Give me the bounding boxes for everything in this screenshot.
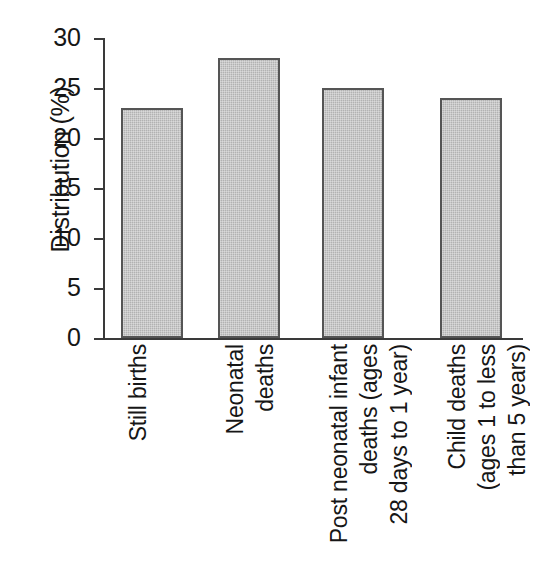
y-tick-label-30: 30: [53, 23, 81, 51]
bar: [322, 88, 384, 338]
y-tick-label-10: 10: [53, 223, 81, 251]
y-tick-label-5: 5: [67, 273, 81, 301]
bar: [121, 108, 183, 338]
x-axis-label-line: deaths (ages: [354, 344, 384, 475]
y-tick-30: 30: [94, 38, 103, 40]
x-axis-line: [103, 338, 523, 340]
x-axis-label-line: deaths: [250, 344, 280, 412]
bar-chart: Distribution (%) 051015202530 Still birt…: [0, 0, 540, 587]
y-tick-label-15: 15: [53, 173, 81, 201]
y-tick-25: 25: [94, 88, 103, 90]
bar: [218, 58, 280, 338]
x-axis-label-line: Neonatal: [220, 344, 250, 434]
y-tick-5: 5: [94, 288, 103, 290]
x-axis-label: Still births: [123, 344, 185, 574]
x-axis-label-line: Still births: [123, 344, 153, 441]
y-tick-label-25: 25: [53, 73, 81, 101]
x-axis-label-line: 28 days to 1 year): [384, 344, 414, 525]
y-axis-line: [103, 38, 105, 339]
bar: [440, 98, 502, 338]
plot-area: 051015202530: [103, 38, 523, 338]
y-tick-15: 15: [94, 188, 103, 190]
x-axis-label: Neonataldeaths: [220, 344, 282, 574]
x-axis-label: Post neonatal infantdeaths (ages28 days …: [324, 344, 386, 574]
x-axis-label-line: Post neonatal infant: [324, 344, 354, 543]
y-tick-20: 20: [94, 138, 103, 140]
y-tick-label-0: 0: [67, 323, 81, 351]
y-axis-title: Distribution (%): [46, 30, 75, 310]
x-axis-label: Child deaths(ages 1 to lessthan 5 years): [442, 344, 504, 574]
x-axis-label-line: (ages 1 to less: [472, 344, 502, 491]
x-axis-label-line: Child deaths: [442, 344, 472, 469]
y-tick-label-20: 20: [53, 123, 81, 151]
x-axis-labels: Still birthsNeonataldeathsPost neonatal …: [103, 344, 523, 574]
y-tick-10: 10: [94, 238, 103, 240]
y-tick-0: 0: [94, 338, 103, 340]
x-axis-label-line: than 5 years): [502, 344, 532, 476]
